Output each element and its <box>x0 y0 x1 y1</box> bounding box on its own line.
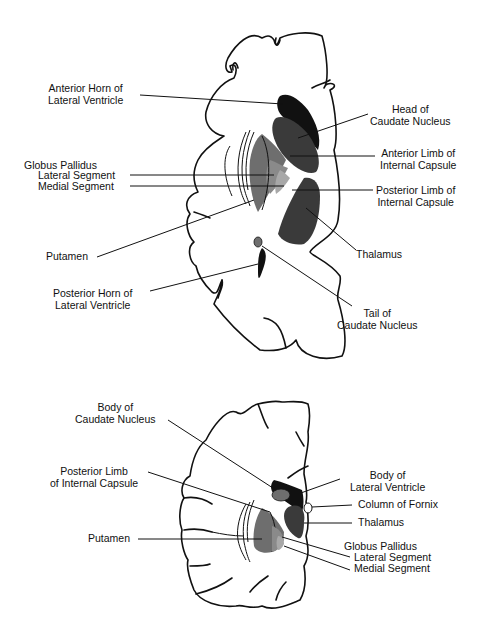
label-posterior-horn: Posterior Horn of Lateral Ventricle <box>53 288 132 311</box>
hemisphere-outline-bottom <box>180 401 310 608</box>
lateral-sulcus <box>212 532 244 536</box>
thalamus <box>278 178 320 245</box>
leader-medial-segment-coronal <box>284 546 350 570</box>
label-line: Posterior Horn of <box>53 288 132 300</box>
leader-anterior-horn <box>140 95 283 104</box>
label-medial-segment-top: Medial Segment <box>38 181 114 193</box>
label-body-lateral-ventricle: Body of Lateral Ventricle <box>350 470 425 493</box>
label-line: Lateral Ventricle <box>53 300 132 312</box>
tail-of-caudate-nucleus <box>254 237 262 247</box>
leader-lateral-segment-coronal <box>282 537 350 557</box>
label-medial-segment-bottom: Medial Segment <box>354 563 430 575</box>
leader-tail-caudate <box>262 246 352 306</box>
sulcus <box>184 529 212 532</box>
label-line: Anterior Horn of <box>48 83 123 95</box>
label-thalamus-top: Thalamus <box>356 249 402 261</box>
sulcus <box>296 432 304 446</box>
leader-posterior-limb-coronal <box>148 472 270 512</box>
sulcus <box>250 576 268 592</box>
coronal-section <box>138 401 352 608</box>
body-of-caudate-nucleus <box>272 489 290 501</box>
horizontal-section <box>97 33 375 358</box>
sulcus <box>190 564 210 566</box>
label-putamen-top: Putamen <box>46 251 88 263</box>
label-head-caudate: Head of Caudate Nucleus <box>370 104 451 127</box>
label-line: Anterior Limb of <box>380 148 456 160</box>
sulcus <box>276 582 286 600</box>
label-line: Tail of <box>337 308 418 320</box>
insula-line <box>225 146 232 196</box>
claustrum-line <box>243 502 250 562</box>
label-posterior-limb-top: Posterior Limb of Internal Capsule <box>376 185 455 208</box>
label-thalamus-bottom: Thalamus <box>358 517 404 529</box>
thalamus-coronal <box>284 506 304 539</box>
label-line: Caudate Nucleus <box>370 116 451 128</box>
posterior-horn-lateral-ventricle <box>258 248 266 278</box>
label-line: Posterior Limb of <box>376 185 455 197</box>
label-line: Internal Capsule <box>380 160 456 172</box>
leader-putamen <box>97 200 254 257</box>
label-line: Body of <box>75 402 156 414</box>
leader-body-lateral-ventricle <box>298 479 340 494</box>
sulcus <box>184 497 212 504</box>
sulcus <box>264 318 286 348</box>
label-anterior-horn: Anterior Horn of Lateral Ventricle <box>48 83 123 106</box>
label-line: Caudate Nucleus <box>337 320 418 332</box>
leader-posterior-horn <box>150 264 258 291</box>
sulcus <box>258 404 268 428</box>
label-line: Caudate Nucleus <box>75 414 156 426</box>
label-body-caudate: Body of Caudate Nucleus <box>75 402 156 425</box>
leader-body-caudate <box>168 420 276 490</box>
label-line: Lateral Ventricle <box>48 95 123 107</box>
insula-line <box>237 504 246 560</box>
label-putamen-bottom: Putamen <box>88 533 130 545</box>
leader-column-fornix <box>312 505 352 507</box>
label-column-fornix: Column of Fornix <box>358 499 438 511</box>
label-line: of Internal Capsule <box>50 478 138 490</box>
label-anterior-limb: Anterior Limb of Internal Capsule <box>380 148 456 171</box>
label-posterior-limb-bottom: Posterior Limb of Internal Capsule <box>50 466 138 489</box>
label-line: Head of <box>370 104 451 116</box>
label-line: Posterior Limb <box>50 466 138 478</box>
label-line: Body of <box>350 470 425 482</box>
sulcus <box>196 578 232 594</box>
label-line: Internal Capsule <box>376 197 455 209</box>
label-line: Lateral Ventricle <box>350 482 425 494</box>
column-of-fornix <box>304 503 312 513</box>
label-tail-caudate: Tail of Caudate Nucleus <box>337 308 418 331</box>
